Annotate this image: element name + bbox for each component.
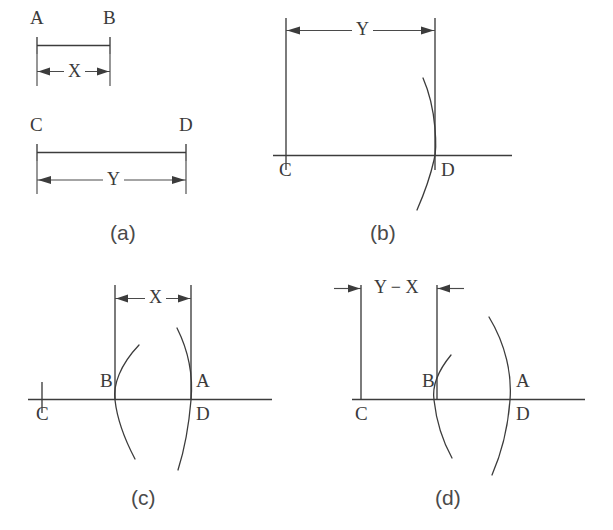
- dimension-label-y-panel-a: Y: [103, 170, 124, 188]
- panel-c-geometry: [28, 285, 272, 470]
- label-point-a-panel-c: A: [196, 371, 210, 390]
- dimension-label-x-panel-c: X: [145, 288, 166, 306]
- dimension-label-x-panel-a: X: [64, 62, 85, 80]
- label-point-c-panel-b: C: [279, 160, 292, 179]
- arrowhead-x-c-right: [178, 295, 190, 303]
- dimension-label-yx-panel-d: Y − X: [370, 278, 422, 296]
- arrowhead-x-right: [97, 68, 109, 76]
- label-point-a-panel-a: A: [30, 8, 44, 27]
- arc-at-d-b: [417, 78, 436, 210]
- label-point-b-panel-c: B: [100, 371, 113, 390]
- panel-caption-a: (a): [110, 222, 136, 243]
- arc-at-a-d: [489, 317, 510, 475]
- figure-canvas: [0, 0, 613, 530]
- panel-d-geometry: [334, 285, 585, 475]
- label-point-d-panel-b: D: [441, 160, 455, 179]
- label-point-d-panel-c: D: [196, 404, 210, 423]
- label-point-a-panel-d: A: [516, 371, 530, 390]
- arrowhead-x-c-left: [116, 295, 128, 303]
- arrowhead-y-b-right: [421, 27, 434, 35]
- arrowhead-yx-right: [438, 285, 450, 293]
- label-point-d-panel-d: D: [516, 404, 530, 423]
- dimension-label-y-panel-b: Y: [352, 20, 373, 38]
- arrowhead-y-right: [172, 176, 185, 184]
- arrowhead-y-left: [38, 176, 51, 184]
- arrowhead-x-left: [38, 68, 50, 76]
- panel-caption-b: (b): [370, 222, 396, 243]
- figure-root: A B X C D Y (a) Y C D (b) X C B A D (c) …: [0, 0, 613, 530]
- panel-b-geometry: [273, 18, 512, 210]
- panel-caption-d: (d): [435, 487, 461, 508]
- arrowhead-yx-left: [348, 285, 360, 293]
- label-point-b-panel-d: B: [422, 371, 435, 390]
- arc-at-b-c: [115, 345, 139, 459]
- arrowhead-y-b-left: [287, 27, 300, 35]
- label-point-c-panel-a: C: [30, 115, 43, 134]
- label-point-b-panel-a: B: [103, 8, 116, 27]
- label-point-d-panel-a: D: [179, 115, 193, 134]
- label-point-c-panel-d: C: [355, 404, 368, 423]
- label-point-c-panel-c: C: [36, 404, 49, 423]
- panel-caption-c: (c): [131, 487, 156, 508]
